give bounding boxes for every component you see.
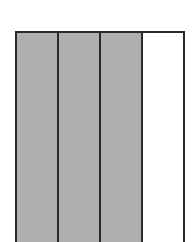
shaded-part-2 <box>59 33 101 242</box>
shaded-part-3 <box>101 33 143 242</box>
unshaded-part-4 <box>143 33 183 242</box>
fraction-rectangle <box>15 31 185 242</box>
shaded-part-1 <box>17 33 59 242</box>
